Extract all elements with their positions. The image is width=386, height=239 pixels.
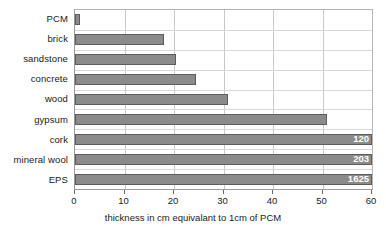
bar-row [75, 109, 372, 129]
y-axis-tick-label: brick [47, 34, 68, 44]
y-axis-tick-label: mineral wool [13, 155, 68, 165]
bar-row [75, 10, 372, 30]
bar-wood [75, 94, 228, 105]
bar-row [75, 50, 372, 70]
y-axis-tick-gypsum: gypsum [0, 110, 72, 130]
y-axis-category-labels: PCM brick sandstone concrete wood gypsum… [0, 9, 72, 190]
x-axis-tick-label: 0 [71, 195, 76, 207]
x-axis-tick [371, 190, 372, 194]
x-axis-tick [322, 190, 323, 194]
bar-concrete [75, 74, 196, 85]
bar-cork: 120 [75, 134, 372, 145]
y-axis-tick-brick: brick [0, 29, 72, 49]
bar-gypsum [75, 114, 327, 125]
x-axis-tick-label: 20 [168, 195, 179, 207]
x-axis-tick-label: 50 [316, 195, 327, 207]
y-axis-tick-mineral-wool: mineral wool [0, 150, 72, 170]
y-axis-tick-label: wood [45, 94, 68, 104]
x-axis-tick-label: 10 [118, 195, 129, 207]
y-axis-tick-eps: EPS [0, 170, 72, 190]
bar-value-label: 1625 [348, 174, 371, 184]
y-axis-tick-label: EPS [49, 175, 68, 185]
bar-mineral-wool: 203 [75, 154, 372, 165]
bar-chart: PCM brick sandstone concrete wood gypsum… [0, 0, 386, 239]
bar-row [75, 30, 372, 50]
bar-value-label: 120 [353, 134, 371, 144]
plot-area: 1202031625 [74, 9, 373, 190]
y-axis-tick-label: gypsum [34, 115, 68, 125]
y-axis-tick-label: sandstone [23, 54, 68, 64]
y-axis-tick-pcm: PCM [0, 9, 72, 29]
bar-PCM [75, 14, 80, 25]
x-axis-tick [223, 190, 224, 194]
bar-row: 203 [75, 149, 372, 169]
bar-row [75, 70, 372, 90]
x-axis-tick [74, 190, 75, 194]
y-axis-tick-label: PCM [47, 14, 68, 24]
y-axis-tick-label: cork [50, 135, 68, 145]
bar-row [75, 90, 372, 110]
bar-value-label: 203 [353, 154, 371, 164]
y-axis-tick-concrete: concrete [0, 69, 72, 89]
bar-row: 1625 [75, 169, 372, 189]
x-axis-tick [173, 190, 174, 194]
bar-brick [75, 34, 164, 45]
x-axis-tick-labels: 0102030405060 [74, 195, 374, 208]
bar-row: 120 [75, 129, 372, 149]
y-axis-tick-sandstone: sandstone [0, 49, 72, 69]
bar-sandstone [75, 54, 176, 65]
x-axis-tick-label: 30 [217, 195, 228, 207]
x-axis-title: thickness in cm equivalant to 1cm of PCM [0, 212, 386, 224]
x-axis-tick-label: 40 [267, 195, 278, 207]
x-axis-tick [124, 190, 125, 194]
x-axis-tick [272, 190, 273, 194]
y-axis-tick-wood: wood [0, 89, 72, 109]
y-axis-tick-cork: cork [0, 130, 72, 150]
y-axis-tick-label: concrete [31, 74, 68, 84]
bars-layer: 1202031625 [75, 10, 372, 189]
bar-EPS: 1625 [75, 174, 372, 185]
x-axis-tick-label: 60 [366, 195, 377, 207]
